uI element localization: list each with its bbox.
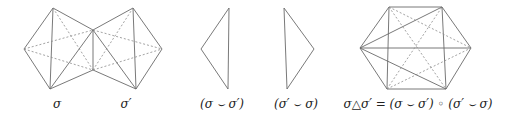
label-diff2: (σ′ ⌣ σ) [274,97,318,111]
label-sigma: σ [53,97,61,111]
label-sigma-prime: σ′ [121,97,132,111]
diff2-figure [284,8,314,89]
sigma-figure [24,8,93,89]
sigma-prime-figure [93,8,162,89]
symdiff-figure [360,7,471,89]
label-symdiff: σ△σ′ = (σ ⌣ σ′) ◦ (σ′ ⌣ σ) [344,97,493,111]
diff1-figure [201,8,229,89]
label-diff1: (σ ⌣ σ′) [200,97,244,111]
